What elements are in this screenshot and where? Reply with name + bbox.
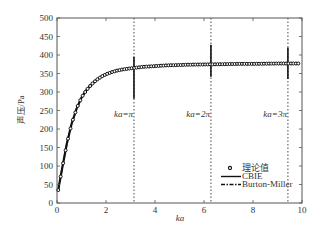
x-axis-label: ka <box>176 213 185 223</box>
chart: ka=πka=2πka=3π 0246810050100150200250300… <box>0 0 328 236</box>
legend-item-burton-miller: Burton-Miller <box>221 179 293 189</box>
theory-marker <box>67 137 70 140</box>
annotation-label: ka=3π <box>263 109 287 119</box>
x-tick-label: 2 <box>104 205 109 215</box>
y-tick-label: 200 <box>40 124 54 134</box>
y-axis-label: 声压/Pa <box>16 95 26 124</box>
y-tick-label: 100 <box>40 161 54 171</box>
x-tick-label: 6 <box>202 205 207 215</box>
circle-marker-icon <box>228 166 231 169</box>
y-tick-label: 350 <box>40 69 54 79</box>
x-tick-label: 8 <box>251 205 256 215</box>
theory-marker <box>81 94 84 97</box>
theory-marker <box>59 175 62 178</box>
theory-marker <box>74 111 77 114</box>
y-tick-label: 500 <box>40 13 54 23</box>
y-tick-label: 0 <box>49 198 54 208</box>
y-tick-label: 300 <box>40 87 54 97</box>
x-tick-label: 10 <box>298 205 308 215</box>
x-tick-label: 4 <box>153 205 158 215</box>
y-tick-label: 50 <box>44 180 54 190</box>
theory-marker <box>297 62 300 65</box>
theory-marker <box>76 104 79 107</box>
annotations: ka=πka=2πka=3π <box>114 109 288 119</box>
theory-marker <box>86 87 89 90</box>
theory-marker <box>79 99 82 102</box>
annotation-label: ka=π <box>114 109 134 119</box>
legend-label-burton-miller: Burton-Miller <box>242 179 293 189</box>
legend: 理论值 CBIE Burton-Miller <box>221 162 293 189</box>
theory-marker <box>64 149 67 152</box>
y-tick-label: 150 <box>40 143 54 153</box>
y-tick-label: 250 <box>40 106 54 116</box>
y-tick-label: 450 <box>40 32 54 42</box>
y-tick-label: 400 <box>40 50 54 60</box>
theory-marker <box>69 127 72 130</box>
theory-marker <box>84 91 87 94</box>
theory-marker <box>62 162 65 165</box>
theory-marker <box>71 118 74 121</box>
x-tick-label: 0 <box>55 205 60 215</box>
annotation-label: ka=2π <box>186 109 210 119</box>
